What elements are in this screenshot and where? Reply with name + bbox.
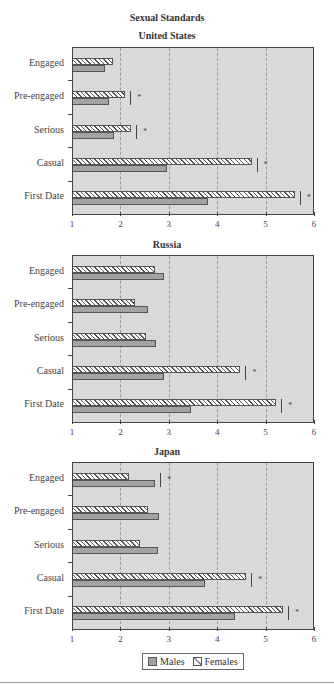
y-axis [72,47,73,215]
x-tick-label: 1 [66,634,78,644]
male-bar [72,340,156,347]
category-label: Pre-engaged [14,505,64,516]
female-bar [72,266,155,273]
significance-bracket [130,91,131,105]
significance-asterisk: * [258,575,262,584]
x-tick [120,212,121,216]
x-axis [72,214,315,215]
male-bar [72,165,167,172]
male-bar [72,306,148,313]
bottom-divider [0,682,334,683]
category-label: Serious [34,124,64,135]
female-bar [72,366,240,373]
category-label: Engaged [29,265,64,276]
male-bar [72,373,164,380]
significance-asterisk: * [143,127,147,136]
plot-area: *** [72,462,314,629]
category-label: Pre-engaged [14,90,64,101]
significance-bracket [300,191,301,205]
x-tick-label: 6 [308,634,320,644]
x-tick-label: 2 [114,427,126,437]
x-tick [314,627,315,631]
male-bar [72,580,205,587]
y-tick [68,147,72,148]
y-tick [68,355,72,356]
gridline [266,48,267,214]
gridline [169,463,170,629]
x-tick-label: 3 [163,634,175,644]
y-axis [72,462,73,630]
legend-label-males: Males [160,656,184,667]
category-label: Serious [34,332,64,343]
legend-item-males: Males [148,656,184,667]
x-tick [169,420,170,424]
male-bar [72,480,155,487]
category-label: First Date [24,398,64,409]
x-tick-label: 4 [211,219,223,229]
male-bar [72,273,164,280]
significance-bracket [136,125,137,139]
male-bar [72,65,105,72]
x-tick [120,420,121,424]
male-bar [72,513,159,520]
female-bar [72,191,295,198]
x-tick [266,212,267,216]
legend-label-females: Females [205,656,238,667]
category-label: Engaged [29,472,64,483]
significance-asterisk: * [167,475,171,484]
significance-asterisk: * [288,401,292,410]
gridline [217,463,218,629]
x-tick-label: 3 [163,427,175,437]
category-label: Engaged [29,57,64,68]
plot-area: ** [72,255,314,422]
panel-title: Russia [0,239,334,250]
x-tick [72,420,73,424]
male-bar [72,547,158,554]
legend: Males Females [142,653,244,670]
x-tick [314,212,315,216]
panel-title: United States [0,30,334,41]
y-axis [72,255,73,423]
female-bar [72,299,135,306]
category-label: Casual [37,572,64,583]
x-tick-label: 2 [114,219,126,229]
males-swatch-icon [148,657,157,666]
x-tick [266,420,267,424]
female-bar [72,540,140,547]
y-tick [68,596,72,597]
y-tick [68,288,72,289]
category-label: Casual [37,365,64,376]
x-tick-label: 5 [260,427,272,437]
female-bar [72,58,113,65]
plot-area: **** [72,47,314,214]
x-tick-label: 4 [211,634,223,644]
y-tick [68,529,72,530]
x-tick-label: 6 [308,219,320,229]
female-bar [72,606,283,613]
male-bar [72,98,109,105]
significance-bracket [245,366,246,380]
x-tick [72,627,73,631]
gridline [169,48,170,214]
female-bar [72,473,129,480]
x-tick-label: 3 [163,219,175,229]
significance-asterisk: * [307,193,311,202]
significance-bracket [288,606,289,620]
category-label: Serious [34,539,64,550]
significance-bracket [251,573,252,587]
female-bar [72,506,148,513]
male-bar [72,198,208,205]
category-label: Pre-engaged [14,298,64,309]
gridline [169,256,170,422]
gridline [266,256,267,422]
category-label: Casual [37,157,64,168]
x-tick [314,420,315,424]
female-bar [72,158,252,165]
females-hatched-swatch-icon [193,657,202,666]
x-tick [120,627,121,631]
x-tick-label: 1 [66,219,78,229]
y-tick [68,114,72,115]
female-bar [72,333,146,340]
female-bar [72,125,131,132]
x-tick [217,627,218,631]
